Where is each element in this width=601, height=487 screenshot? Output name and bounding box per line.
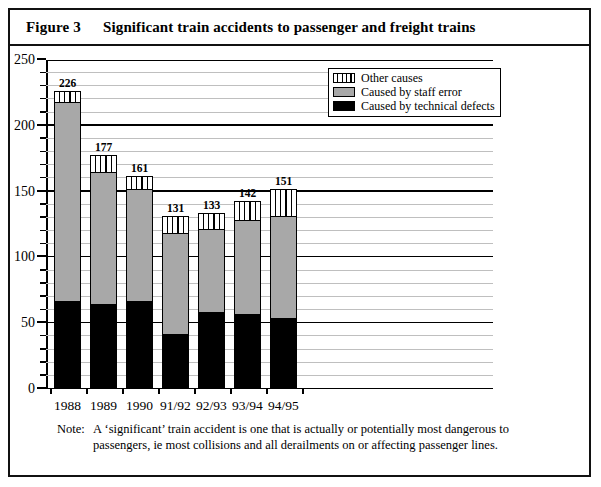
y-axis-tick [40, 177, 46, 179]
bar-segment [90, 155, 117, 173]
bar-value-label: 177 [95, 141, 112, 153]
y-axis-tick [40, 216, 46, 218]
bar-segment [90, 172, 117, 305]
bar-93-94[interactable]: 142 [234, 202, 261, 389]
x-axis-tick [50, 389, 52, 394]
y-axis-tick [40, 164, 46, 166]
bar-1988[interactable]: 226 [54, 92, 81, 389]
bar-segment [234, 201, 261, 220]
x-axis-tick [302, 389, 304, 394]
bar-segment [270, 318, 297, 389]
x-axis-label: 1989 [90, 398, 117, 414]
bar-segment [54, 102, 81, 302]
y-axis-tick [40, 243, 46, 245]
y-axis-label: 150 [14, 184, 35, 200]
y-axis-label: 100 [14, 249, 35, 265]
legend-swatch-icon [333, 87, 355, 97]
x-axis-label: 1990 [126, 398, 153, 414]
bar-value-label: 133 [203, 199, 220, 211]
x-axis-label: 92/93 [196, 398, 227, 414]
bar-segment [270, 216, 297, 320]
x-axis-tick [230, 389, 232, 394]
bar-value-label: 151 [275, 175, 292, 187]
x-axis-label: 91/92 [160, 398, 191, 414]
bar-segment [90, 304, 117, 389]
y-axis-tick [37, 124, 46, 126]
legend-item[interactable]: Caused by staff error [333, 85, 495, 99]
y-axis-tick [40, 98, 46, 100]
note-label: Note: [57, 421, 85, 437]
y-axis-tick [40, 348, 46, 350]
y-axis-tick [40, 203, 46, 205]
bar-1989[interactable]: 177 [90, 156, 117, 389]
bar-segment [198, 213, 225, 230]
bar-segment [126, 189, 153, 302]
y-axis-tick [37, 58, 46, 60]
figure-number: Figure 3 [26, 19, 81, 36]
y-axis-label: 50 [21, 315, 35, 331]
figure-frame: Figure 3 Significant train accidents to … [8, 8, 591, 477]
bar-value-label: 161 [131, 162, 148, 174]
x-axis-tick [86, 389, 88, 394]
x-axis-label: 1988 [54, 398, 81, 414]
x-axis-label: 93/94 [232, 398, 263, 414]
x-axis-tick [194, 389, 196, 394]
chart-legend: Other causesCaused by staff errorCaused … [328, 68, 501, 117]
y-axis-label: 200 [14, 118, 35, 134]
note-text: A ‘significant’ train accident is one th… [93, 421, 557, 453]
bar-value-label: 131 [167, 202, 184, 214]
bar-segment [162, 334, 189, 389]
bar-segment [162, 233, 189, 335]
bar-segment [162, 216, 189, 234]
bar-segment [234, 220, 261, 316]
y-axis-tick [40, 282, 46, 284]
legend-swatch-icon [333, 73, 355, 83]
y-axis-tick [40, 269, 46, 271]
gridline-minor [46, 151, 493, 152]
x-axis-label: 94/95 [268, 398, 299, 414]
chart-plot-area: 050100150200250 226177161131133142151 19… [46, 60, 493, 389]
legend-item[interactable]: Other causes [333, 71, 495, 85]
legend-label: Other causes [361, 71, 423, 86]
bar-segment [54, 91, 81, 104]
y-axis-label: 250 [14, 52, 35, 68]
bar-segment [126, 176, 153, 190]
y-axis-tick [37, 255, 46, 257]
y-axis-tick [40, 111, 46, 113]
y-axis-tick [37, 387, 46, 389]
bar-segment [234, 314, 261, 389]
y-axis-tick [40, 137, 46, 139]
y-axis-tick [40, 72, 46, 74]
y-axis-tick [40, 309, 46, 311]
gridline-minor [46, 138, 493, 139]
bar-94-95[interactable]: 151 [270, 190, 297, 389]
legend-label: Caused by technical defects [361, 99, 495, 114]
y-axis-tick [37, 321, 46, 323]
x-axis-tick [122, 389, 124, 394]
legend-label: Caused by staff error [361, 85, 462, 100]
y-axis-tick [40, 230, 46, 232]
bar-92-93[interactable]: 133 [198, 214, 225, 389]
bar-segment [270, 189, 297, 216]
legend-swatch-icon [333, 101, 355, 111]
x-axis-tick [158, 389, 160, 394]
bar-segment [198, 229, 225, 313]
figure-title-bar: Figure 3 Significant train accidents to … [10, 10, 589, 46]
bar-1990[interactable]: 161 [126, 177, 153, 389]
y-axis-tick [40, 335, 46, 337]
y-axis-tick [40, 151, 46, 153]
bar-segment [126, 301, 153, 389]
gridline-major [46, 124, 493, 126]
figure-note: Note: A ‘significant’ train accident is … [57, 421, 557, 453]
y-axis-tick [40, 374, 46, 376]
x-axis-tick [266, 389, 268, 394]
y-axis-tick [40, 85, 46, 87]
bar-segment [54, 301, 81, 389]
page-title: Significant train accidents to passenger… [103, 19, 475, 36]
bar-91-92[interactable]: 131 [162, 217, 189, 389]
y-axis-label: 0 [28, 381, 35, 397]
y-axis-tick [40, 361, 46, 363]
bar-segment [198, 312, 225, 389]
legend-item[interactable]: Caused by technical defects [333, 99, 495, 113]
y-axis-tick [40, 295, 46, 297]
